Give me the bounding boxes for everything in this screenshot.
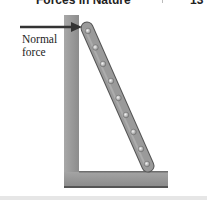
ladder (85, 28, 150, 167)
bottom-divider (0, 196, 207, 200)
label-line-1: Normal (22, 33, 57, 46)
ladder-diagram (0, 0, 207, 203)
normal-force-label: Normal force (22, 33, 57, 59)
normal-force-arrow-icon (20, 22, 82, 32)
wall (64, 15, 79, 187)
floor (64, 171, 168, 188)
label-line-2: force (22, 46, 57, 59)
